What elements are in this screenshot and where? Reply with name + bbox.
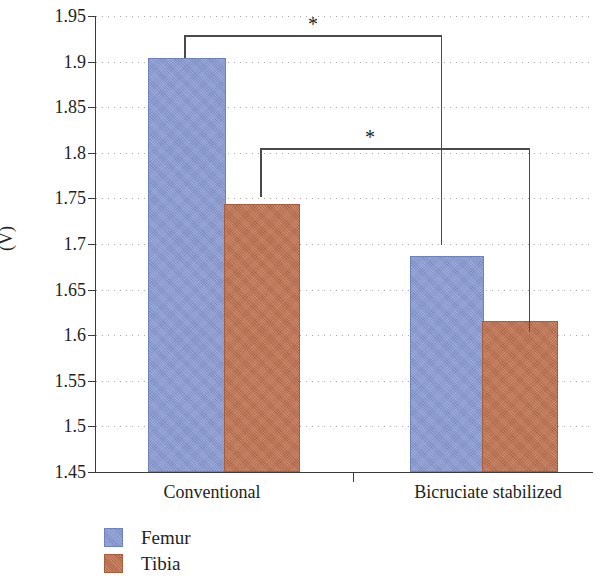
x-axis-line: [95, 472, 593, 473]
significance-bracket-tibia-top: [260, 148, 530, 150]
y-tick-label-1.60: 1.6: [28, 326, 86, 344]
significance-bracket-femur-right-arm: [441, 35, 443, 245]
plot-area: [96, 16, 592, 472]
bar-conventional-femur: [148, 58, 226, 472]
y-tick-label-1.50: 1.5: [28, 417, 86, 435]
significance-bracket-femur-top: [184, 35, 442, 37]
y-tick-mark-1.95: [88, 16, 96, 17]
y-tick-label-1.95: 1.95: [28, 7, 86, 25]
y-tick-mark-1.65: [88, 290, 96, 291]
legend-item-femur: Femur: [104, 524, 191, 550]
y-tick-label-1.90: 1.9: [28, 53, 86, 71]
y-tick-mark-1.80: [88, 153, 96, 154]
y-tick-label-1.75: 1.75: [28, 189, 86, 207]
y-tick-label-1.45: 1.45: [28, 463, 86, 481]
y-tick-mark-1.45: [88, 472, 96, 473]
significance-asterisk-tibia: *: [340, 127, 400, 147]
category-separator-tick: [353, 473, 354, 482]
legend-label-tibia: Tibia: [141, 554, 180, 573]
y-tick-mark-1.75: [88, 198, 96, 199]
y-tick-mark-1.85: [88, 107, 96, 108]
legend-item-tibia: Tibia: [104, 550, 191, 576]
legend-swatch-femur-icon: [104, 528, 123, 547]
bar-bicruciate-femur: [410, 256, 484, 472]
legend-swatch-tibia-icon: [104, 554, 123, 573]
y-tick-label-1.65: 1.65: [28, 281, 86, 299]
y-tick-label-1.85: 1.85: [28, 98, 86, 116]
y-tick-mark-1.50: [88, 426, 96, 427]
y-axis-title: (V): [0, 226, 17, 251]
y-tick-label-1.55: 1.55: [28, 372, 86, 390]
y-tick-mark-1.55: [88, 381, 96, 382]
legend-label-femur: Femur: [141, 528, 191, 547]
bar-chart: 1.95 1.9 1.85 1.8 1.75 1.7 1.65 1.6 1.55…: [0, 0, 608, 580]
bar-conventional-tibia: [224, 204, 300, 472]
legend: Femur Tibia: [104, 524, 191, 576]
significance-bracket-tibia-left-arm: [260, 148, 262, 197]
x-axis-label-conventional: Conventional: [122, 482, 302, 503]
significance-asterisk-femur: *: [283, 14, 343, 34]
significance-bracket-femur-left-arm: [184, 35, 186, 58]
y-tick-labels: 1.95 1.9 1.85 1.8 1.75 1.7 1.65 1.6 1.55…: [20, 0, 86, 580]
significance-bracket-tibia-right-arm: [529, 148, 531, 332]
bar-bicruciate-tibia: [482, 321, 558, 472]
y-tick-label-1.80: 1.8: [28, 144, 86, 162]
x-axis-label-bicruciate-stabilized: Bicruciate stabilized: [382, 482, 594, 503]
y-tick-mark-1.70: [88, 244, 96, 245]
y-tick-mark-1.90: [88, 62, 96, 63]
y-tick-mark-1.60: [88, 335, 96, 336]
y-tick-label-1.70: 1.7: [28, 235, 86, 253]
